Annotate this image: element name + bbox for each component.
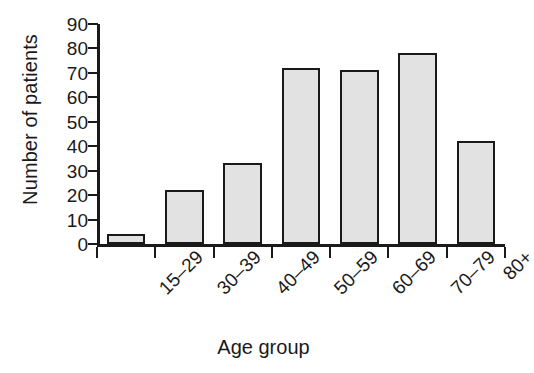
x-axis-tick-label: 30–39 xyxy=(214,247,265,298)
y-axis-tick-label: 10 xyxy=(38,210,88,229)
x-axis-tick-label: 40–49 xyxy=(272,247,323,298)
y-axis-tick-label: 40 xyxy=(38,137,88,156)
x-axis-tick-label: 80+ xyxy=(499,247,534,283)
bar xyxy=(340,70,378,244)
x-axis-tick-label-group: 15–2930–3940–4950–5960–6970–7980+ xyxy=(97,247,507,327)
x-axis-title: Age group xyxy=(0,336,527,359)
y-axis-tick-label: 50 xyxy=(38,112,88,131)
bar xyxy=(457,141,495,244)
bar xyxy=(282,68,320,244)
plot-area xyxy=(97,24,505,244)
y-axis-tick-label: 70 xyxy=(38,63,88,82)
x-axis-tick-label: 15–29 xyxy=(156,247,207,298)
bar xyxy=(107,234,145,244)
bar-series xyxy=(97,24,505,244)
y-axis-tick-label: 60 xyxy=(38,88,88,107)
x-axis-tick-label: 50–59 xyxy=(330,247,381,298)
bar xyxy=(223,163,261,244)
x-axis-tick-label: 60–69 xyxy=(389,247,440,298)
bar xyxy=(398,53,436,244)
y-axis-tick-label-group: 0102030405060708090 xyxy=(38,24,88,244)
y-axis-tick-label: 30 xyxy=(38,161,88,180)
y-axis-tick-label: 80 xyxy=(38,39,88,58)
y-axis-tick-label: 20 xyxy=(38,186,88,205)
bar xyxy=(165,190,203,244)
y-axis-tick-label: 0 xyxy=(38,235,88,254)
y-axis-tick-label: 90 xyxy=(38,15,88,34)
x-axis-tick-label: 70–79 xyxy=(447,247,498,298)
